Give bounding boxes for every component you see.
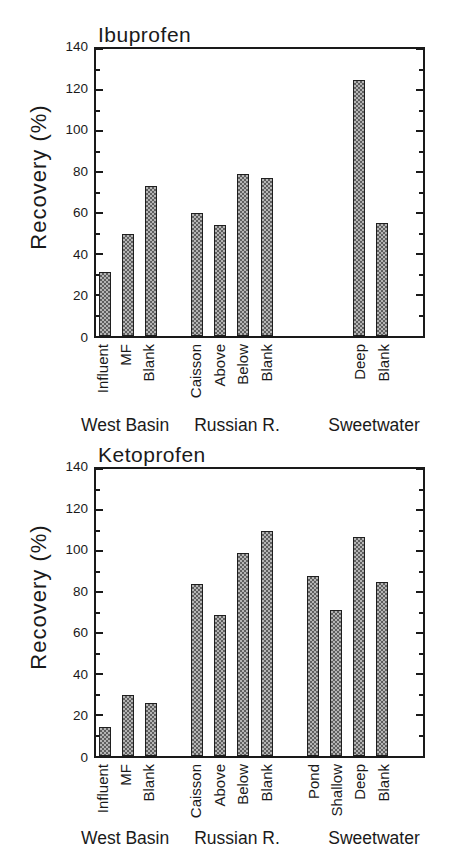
bar-blank (376, 582, 388, 756)
y-axis-major-tick (96, 48, 103, 50)
chart-ibuprofen: IbuprofenRecovery (%)020406080100120140I… (0, 0, 452, 430)
y-tick-label: 120 (52, 501, 88, 517)
x-tick-label: Blank (259, 344, 275, 382)
y-axis-minor-tick (96, 694, 100, 696)
x-tick-label: Deep (352, 764, 368, 800)
y-axis-major-tick (96, 253, 103, 255)
x-tick-label: Pond (306, 764, 322, 799)
plot-area (94, 47, 425, 338)
bar-blank (376, 223, 388, 336)
y-axis-major-tick (416, 171, 423, 173)
y-axis-major-tick (416, 632, 423, 634)
bar-below (237, 553, 249, 756)
x-tick-label: Caisson (188, 764, 204, 818)
figure-bar-charts: { "figure": { "background": "#ffffff", "… (0, 0, 452, 867)
y-axis-major-tick (416, 89, 423, 91)
y-axis-major-tick (416, 130, 423, 132)
plot-area (94, 467, 425, 758)
y-axis-minor-tick (96, 192, 100, 194)
y-axis-minor-tick (419, 612, 423, 614)
y-tick-label: 140 (52, 39, 88, 55)
group-label-strip: West BasinRussian R.Sweetwater (94, 828, 425, 850)
group-label: West Basin (81, 828, 169, 849)
x-tick-label: Blank (141, 764, 157, 802)
x-axis-label-strip: InfluentMFBlankCaissonAboveBelowBlankDee… (94, 340, 425, 420)
y-axis-minor-tick (419, 530, 423, 532)
y-axis-minor-tick (419, 735, 423, 737)
y-axis-major-tick (416, 714, 423, 716)
bar-deep (353, 80, 365, 336)
y-axis-minor-tick (419, 489, 423, 491)
y-axis-major-tick (96, 550, 103, 552)
y-tick-label: 40 (52, 667, 88, 683)
y-axis-major-tick (416, 509, 423, 511)
y-axis-major-tick (416, 591, 423, 593)
y-axis-major-tick (416, 212, 423, 214)
x-tick-label: Influent (95, 764, 111, 813)
y-axis-minor-tick (96, 653, 100, 655)
y-axis-major-tick (96, 89, 103, 91)
y-axis-minor-tick (96, 69, 100, 71)
y-axis-major-tick (416, 253, 423, 255)
y-tick-label: 0 (52, 750, 88, 766)
y-axis-major-tick (96, 673, 103, 675)
y-tick-label: 40 (52, 247, 88, 263)
bar-influent (99, 727, 111, 756)
x-tick-label: Above (212, 344, 228, 387)
chart-title: Ibuprofen (98, 23, 191, 47)
y-tick-label: 80 (52, 584, 88, 600)
bar-above (214, 615, 226, 756)
y-axis-major-tick (96, 632, 103, 634)
y-axis-minor-tick (419, 653, 423, 655)
bar-mf (122, 695, 134, 757)
y-axis-minor-tick (419, 315, 423, 317)
y-axis-minor-tick (419, 694, 423, 696)
y-axis-label: Recovery (%) (26, 524, 52, 669)
y-axis-minor-tick (96, 612, 100, 614)
bar-deep (353, 537, 365, 756)
bar-blank (145, 186, 157, 336)
bar-mf (122, 234, 134, 337)
bar-caisson (191, 213, 203, 336)
y-tick-label: 100 (52, 122, 88, 138)
x-tick-label: Deep (352, 344, 368, 380)
y-axis-label: Recovery (%) (26, 104, 52, 249)
x-tick-label: Above (212, 764, 228, 807)
y-axis-minor-tick (419, 151, 423, 153)
bar-shallow (330, 610, 342, 756)
x-tick-label: Shallow (329, 764, 345, 817)
bar-blank (261, 531, 273, 757)
y-axis-minor-tick (96, 110, 100, 112)
bar-blank (261, 178, 273, 336)
y-tick-label: 0 (52, 330, 88, 346)
y-axis-major-tick (96, 509, 103, 511)
x-tick-label: MF (118, 344, 134, 366)
y-axis-minor-tick (419, 69, 423, 71)
y-tick-label: 60 (52, 205, 88, 221)
y-tick-label: 100 (52, 542, 88, 558)
y-axis-major-tick (416, 468, 423, 470)
y-axis-minor-tick (96, 489, 100, 491)
y-axis-minor-tick (419, 233, 423, 235)
x-tick-label: Blank (141, 344, 157, 382)
x-tick-label: Caisson (188, 344, 204, 398)
y-axis-major-tick (416, 673, 423, 675)
y-axis-minor-tick (96, 151, 100, 153)
bar-above (214, 225, 226, 336)
y-axis-minor-tick (419, 274, 423, 276)
y-axis-major-tick (96, 591, 103, 593)
y-tick-label: 140 (52, 459, 88, 475)
y-axis-minor-tick (419, 571, 423, 573)
y-axis-major-tick (96, 130, 103, 132)
y-axis-major-tick (416, 550, 423, 552)
y-tick-label: 60 (52, 625, 88, 641)
y-axis-minor-tick (96, 233, 100, 235)
y-tick-label: 20 (52, 288, 88, 304)
y-axis-minor-tick (419, 110, 423, 112)
x-tick-label: Blank (376, 344, 392, 382)
y-tick-label: 80 (52, 164, 88, 180)
x-tick-label: MF (118, 764, 134, 786)
bar-influent (99, 272, 111, 336)
bar-below (237, 174, 249, 336)
bar-caisson (191, 584, 203, 756)
